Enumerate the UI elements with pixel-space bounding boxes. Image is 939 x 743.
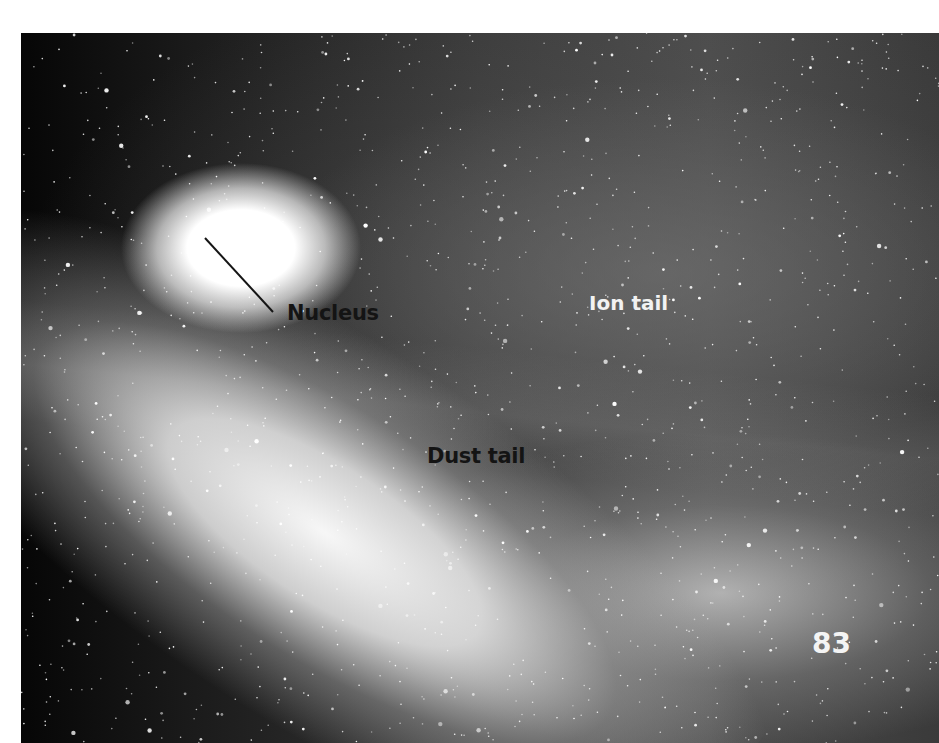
ion-tail-label: Ion tail [589, 291, 668, 315]
dust-tail-label: Dust tail [427, 444, 525, 468]
comet-photo: Nucleus Ion tail Dust tail 83 [21, 33, 939, 743]
page-number: 83 [812, 627, 851, 660]
nucleus-pointer-line [21, 33, 939, 743]
nucleus-label: Nucleus [287, 301, 379, 325]
